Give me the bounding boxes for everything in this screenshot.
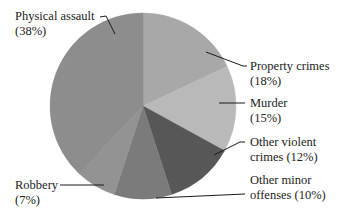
pie-chart: Physical assault(38%) Property crimes(18… [0, 0, 342, 216]
label-murder: Murder(15%) [250, 96, 288, 125]
label-robbery: Robbery(7%) [15, 178, 59, 207]
label-other-violent: Other violentcrimes (12%) [250, 135, 318, 164]
label-property-crimes: Property crimes(18%) [250, 59, 330, 88]
label-physical-assault: Physical assault(38%) [15, 9, 95, 38]
label-other-minor: Other minoroffenses (10%) [250, 173, 326, 202]
pie-slices [50, 13, 236, 199]
